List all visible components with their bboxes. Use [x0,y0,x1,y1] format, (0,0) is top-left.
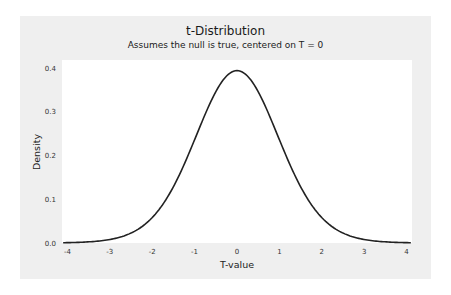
y-tick-label: 0.1 [45,196,56,204]
plot-area [62,60,412,243]
x-tick-label: 2 [320,248,324,256]
y-tick-label: 0.2 [45,152,56,160]
y-axis-label: Density [31,134,42,170]
x-axis-ticks: -4-3-2-101234 [64,248,409,256]
x-tick-label: -1 [191,248,198,256]
x-tick-label: 3 [362,248,366,256]
y-axis-ticks: 0.00.10.20.30.4 [45,65,57,248]
x-axis-label: T-value [219,259,254,270]
x-tick-label: 0 [235,248,239,256]
y-tick-label: 0.0 [45,240,56,248]
x-tick-label: -2 [149,248,156,256]
y-tick-label: 0.3 [45,108,56,116]
x-tick-label: -3 [106,248,113,256]
x-tick-label: 1 [277,248,281,256]
x-tick-label: -4 [64,248,72,256]
y-tick-label: 0.4 [45,65,57,73]
chart-svg: 0.00.10.20.30.4 -4-3-2-101234 T-value De… [0,0,451,295]
x-tick-label: 4 [404,248,409,256]
